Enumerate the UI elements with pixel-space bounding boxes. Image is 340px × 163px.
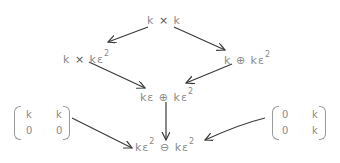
- node-left-b: kε: [90, 53, 104, 66]
- matrix-left-r1c1: k: [26, 110, 32, 120]
- node-right: k ⊕ kε2: [224, 51, 271, 67]
- node-right-b: kε: [251, 54, 265, 67]
- node-bottom-op: ⊖: [160, 141, 170, 154]
- node-bottom-exp-a: 2: [149, 137, 155, 146]
- matrix-left-r1c2: k: [56, 110, 62, 120]
- node-bottom: kε2 ⊖ kε2: [135, 138, 195, 154]
- node-top-op: ×: [159, 14, 169, 27]
- matrix-right: 0 k 0 k: [272, 106, 326, 140]
- node-top-b: k: [174, 14, 181, 27]
- node-top-a: k: [147, 14, 154, 27]
- node-middle-b: kε: [174, 91, 188, 104]
- node-bottom-a: kε: [135, 141, 149, 154]
- node-bottom-b: kε: [175, 141, 189, 154]
- matrix-right-r1c1: 0: [282, 110, 288, 120]
- matrix-left-r2c2: 0: [56, 126, 62, 136]
- node-right-a: k: [224, 54, 231, 67]
- matrix-right-r2c2: k: [312, 126, 318, 136]
- matrix-right-r2c1: 0: [282, 126, 288, 136]
- node-middle-op: ⊕: [159, 91, 169, 104]
- matrix-left-r2c1: 0: [26, 126, 32, 136]
- node-left-a: k: [63, 53, 70, 66]
- node-right-op: ⊕: [236, 54, 246, 67]
- matrix-left-bracket-open: [14, 106, 21, 140]
- matrix-left: k k 0 0: [14, 106, 70, 140]
- arrow-top-to-left: [108, 27, 148, 42]
- matrix-right-bracket-open: [272, 106, 279, 140]
- arrow-matrix-right-to-bottom: [205, 118, 265, 140]
- node-middle-exp: 2: [188, 87, 194, 96]
- matrix-left-bracket-close: [63, 106, 70, 140]
- node-bottom-exp-b: 2: [189, 137, 195, 146]
- matrix-right-bracket-close: [319, 106, 326, 140]
- matrix-right-r1c2: k: [312, 110, 318, 120]
- node-top: k × k: [147, 15, 181, 27]
- commutative-diagram: k × k k × kε2 k ⊕ kε2 kε ⊕ kε2 kε2 ⊖ kε2…: [0, 0, 340, 163]
- arrow-left-to-middle: [89, 62, 145, 88]
- node-right-exp: 2: [265, 50, 271, 59]
- node-left-exp: 2: [104, 49, 110, 58]
- node-middle-a: kε: [140, 91, 154, 104]
- arrow-top-to-right: [174, 27, 225, 50]
- arrow-matrix-left-to-bottom: [72, 118, 132, 148]
- arrow-right-to-middle: [186, 64, 232, 83]
- node-left-op: ×: [75, 53, 85, 66]
- node-middle: kε ⊕ kε2: [140, 88, 194, 104]
- node-left: k × kε2: [63, 50, 110, 66]
